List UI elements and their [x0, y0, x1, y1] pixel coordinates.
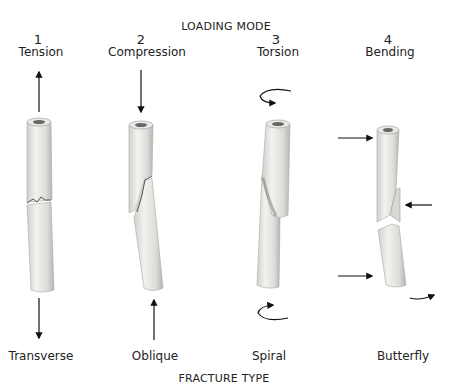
bone-bending [377, 126, 406, 287]
bending-arrow-tip [410, 295, 434, 299]
torsion-arrow-top [260, 89, 291, 103]
bone-tension [27, 118, 54, 292]
bone-compression [129, 121, 163, 291]
bone-torsion [257, 120, 290, 288]
torsion-arrow-bottom [258, 305, 288, 320]
fracture-label-oblique: Oblique [132, 349, 178, 363]
bone-fracture-illustration [0, 0, 455, 388]
fracture-label-spiral: Spiral [252, 349, 286, 363]
fracture-label-butterfly: Butterfly [377, 349, 429, 363]
fracture-type-title: FRACTURE TYPE [178, 372, 269, 385]
fracture-label-transverse: Transverse [9, 349, 74, 363]
